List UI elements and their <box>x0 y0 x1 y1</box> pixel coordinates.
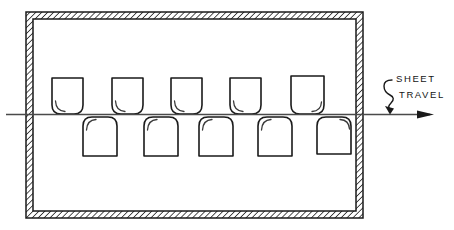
nozzle-box-upper <box>112 78 143 114</box>
nozzle-box-lower <box>258 117 292 156</box>
nozzle-box-lower <box>83 117 117 156</box>
nozzle-box-upper <box>291 76 324 114</box>
nozzle-box-upper <box>171 78 202 114</box>
sheet-label: SHEET <box>396 73 436 84</box>
oven-cross-section-diagram: SHEET TRAVEL <box>0 0 454 230</box>
nozzle-box-lower <box>199 117 233 156</box>
travel-label: TRAVEL <box>399 89 445 100</box>
nozzle-box-lower <box>144 117 178 156</box>
nozzle-box-lower <box>317 117 351 154</box>
nozzle-box-upper <box>230 78 261 114</box>
diagram-root: SHEET TRAVEL <box>0 0 454 230</box>
nozzle-box-upper <box>52 78 83 114</box>
